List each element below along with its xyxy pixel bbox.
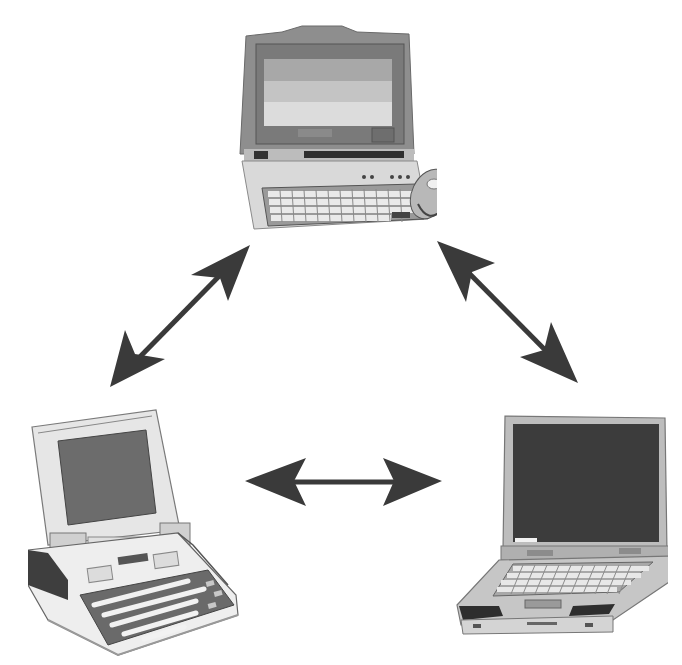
laptop-top	[232, 14, 437, 239]
laptop-icon	[232, 14, 437, 239]
arrow-bottom-left-to-bottom-right	[245, 458, 442, 506]
laptop-icon	[443, 410, 668, 635]
arrow-top-to-bottom-right	[437, 241, 578, 383]
arrow-top-to-bottom-left	[110, 245, 250, 387]
laptop-icon	[28, 405, 253, 663]
laptop-bottom-right	[443, 410, 668, 635]
laptop-bottom-left	[28, 405, 253, 663]
